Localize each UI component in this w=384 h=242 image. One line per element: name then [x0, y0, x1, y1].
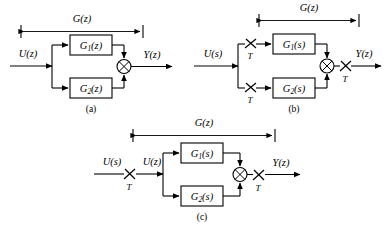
- intermediate-label-c: U(z): [143, 156, 162, 168]
- figure-canvas: G(z) U(z) G1(z) G2(z): [0, 0, 384, 242]
- block-g1-c: G1(s): [181, 143, 223, 163]
- output-label-b: Y(z): [356, 48, 373, 60]
- summing-junction-a: [117, 60, 131, 74]
- caption-c: (c): [197, 212, 208, 223]
- summing-junction-b: [320, 59, 334, 73]
- block-g2-b: G2(s): [273, 78, 315, 98]
- output-label-c: Y(z): [273, 157, 290, 169]
- input-label-b: U(s): [204, 48, 223, 60]
- summing-junction-c: [233, 168, 247, 182]
- block-g2-a: G2(z): [70, 78, 112, 98]
- input-label-c: U(s): [103, 156, 122, 168]
- block-diagram-figure: G(z) U(z) G1(z) G2(z): [0, 0, 384, 242]
- block-g2-c: G2(s): [181, 186, 223, 206]
- input-label-a: U(z): [19, 48, 38, 60]
- span-label-c: G(z): [195, 117, 214, 129]
- caption-b: (b): [288, 104, 299, 115]
- caption-a: (a): [86, 104, 97, 115]
- block-g1-b: G1(s): [273, 34, 315, 54]
- block-g1-a: G1(z): [70, 35, 112, 55]
- output-label-a: Y(z): [144, 49, 161, 61]
- span-label-b: G(z): [300, 2, 319, 14]
- span-label-a: G(z): [73, 13, 92, 25]
